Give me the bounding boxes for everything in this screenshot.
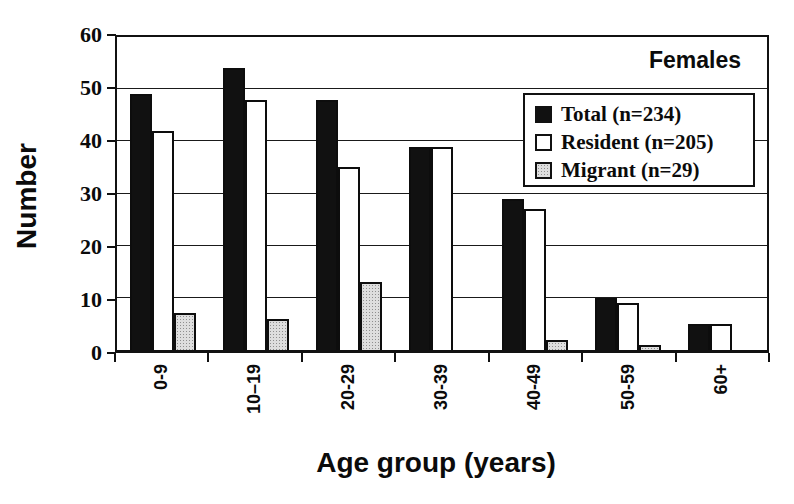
bar-total-10–19: [223, 68, 245, 350]
bar-group-30-39: [396, 37, 489, 350]
legend-label-migrant: Migrant (n=29): [561, 158, 700, 183]
legend-swatch-resident: [535, 134, 552, 151]
bar-resident-40-49: [524, 209, 546, 350]
x-tick-label-30-39: 30-39: [431, 364, 452, 410]
y-tick-label-60: 60: [52, 22, 102, 48]
x-tick-mark-5: [581, 353, 583, 362]
legend-swatch-total: [535, 106, 552, 123]
chart-annotation: Females: [649, 47, 741, 74]
y-tick-label-20: 20: [52, 234, 102, 260]
bar-total-20-29: [316, 100, 338, 350]
x-tick-mark-0: [114, 353, 116, 362]
bar-total-40-49: [502, 199, 524, 350]
bar-resident-50-59: [617, 303, 639, 350]
bar-group-40-49: [488, 37, 581, 350]
x-tick-label-20-29: 20-29: [338, 364, 359, 410]
x-tick-label-40-49: 40-49: [524, 364, 545, 410]
plot-area: Females Total (n=234) Resident (n=205) M…: [115, 35, 769, 353]
bar-total-30-39: [409, 147, 431, 350]
x-tick-mark-2: [301, 353, 303, 362]
bar-migrant-40-49: [546, 340, 568, 350]
bar-resident-20-29: [338, 167, 360, 350]
legend-label-resident: Resident (n=205): [561, 130, 714, 155]
chart-figure: Number 0102030405060 Females Total (n=23…: [0, 0, 794, 504]
bar-total-50-59: [595, 298, 617, 350]
y-tick-label-10: 10: [52, 287, 102, 313]
x-axis-tick-marks: [115, 353, 769, 362]
bar-group-0-9: [117, 37, 210, 350]
legend-item-total: Total (n=234): [535, 100, 753, 128]
legend: Total (n=234) Resident (n=205) Migrant (…: [523, 93, 755, 187]
bar-group-50-59: [581, 37, 674, 350]
y-axis-title: Number: [11, 143, 43, 249]
x-tick-label-50-59: 50-59: [618, 364, 639, 410]
bar-groups: [117, 37, 767, 350]
bar-migrant-0-9: [174, 313, 196, 350]
x-axis-labels: 0-910–1920-2930-3940-4950-5960+: [115, 364, 769, 436]
legend-swatch-migrant: [535, 162, 552, 179]
bar-migrant-50-59: [639, 345, 661, 350]
x-tick-mark-4: [488, 353, 490, 362]
y-tick-label-50: 50: [52, 75, 102, 101]
x-tick-label-0-9: 0-9: [151, 364, 172, 390]
x-tick-mark-3: [394, 353, 396, 362]
legend-label-total: Total (n=234): [561, 102, 681, 127]
bar-group-10–19: [210, 37, 303, 350]
bar-group-60+: [674, 37, 767, 350]
bar-total-0-9: [130, 94, 152, 350]
x-tick-mark-7: [768, 353, 770, 362]
bar-group-20-29: [303, 37, 396, 350]
x-tick-label-60+: 60+: [711, 364, 732, 395]
legend-item-migrant: Migrant (n=29): [535, 156, 753, 184]
bar-resident-0-9: [152, 131, 174, 350]
x-tick-mark-6: [675, 353, 677, 362]
legend-item-resident: Resident (n=205): [535, 128, 753, 156]
bar-total-60+: [688, 324, 710, 350]
bar-resident-10–19: [245, 100, 267, 350]
bar-resident-60+: [710, 324, 732, 350]
y-tick-label-0: 0: [52, 340, 102, 366]
x-tick-label-10–19: 10–19: [244, 364, 265, 414]
y-tick-label-40: 40: [52, 128, 102, 154]
x-axis-title: Age group (years): [316, 447, 556, 479]
x-tick-mark-1: [207, 353, 209, 362]
bar-migrant-10–19: [267, 319, 289, 350]
bar-resident-30-39: [431, 147, 453, 350]
bar-migrant-20-29: [360, 282, 382, 350]
y-tick-label-30: 30: [52, 181, 102, 207]
